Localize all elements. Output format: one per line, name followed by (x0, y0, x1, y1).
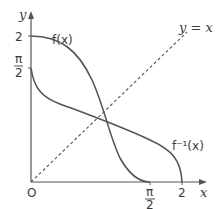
identity-line (31, 32, 187, 182)
f-inverse-curve (31, 68, 182, 182)
y-tick-label-pi-den: 2 (15, 66, 23, 80)
y-axis-arrow-icon (28, 11, 34, 19)
x-axis-label: x (200, 185, 208, 200)
x-tick-label-pi: π (146, 185, 153, 199)
y-axis-label: y (18, 7, 27, 22)
f-label: f(x) (52, 33, 73, 47)
y-tick-label-pi: π (15, 52, 22, 66)
identity-label: y = x (178, 20, 214, 35)
chart: y x O 2 π 2 π 2 2 f(x) f⁻¹(x) y = x (0, 0, 218, 209)
f-inverse-label: f⁻¹(x) (172, 139, 204, 153)
origin-label: O (27, 186, 36, 200)
y-tick-label-2: 2 (15, 30, 23, 44)
x-tick-label-pi-den: 2 (146, 198, 154, 209)
f-curve (31, 36, 150, 182)
x-tick-label-2: 2 (178, 186, 186, 200)
